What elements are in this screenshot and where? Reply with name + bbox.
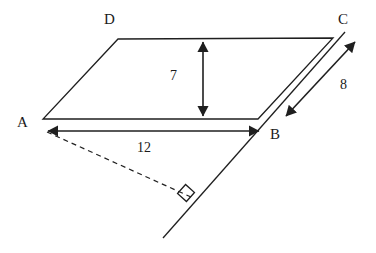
base-measure-label: 12 [137,141,151,155]
vertex-label-c: C [338,12,348,27]
figure-canvas [0,0,376,253]
geometry-figure: A B C D 7 12 8 [0,0,376,253]
vertex-label-d: D [104,12,115,27]
vertex-label-a: A [17,115,28,130]
parallelogram-abcd [43,38,333,119]
vertex-label-b: B [270,127,280,142]
height-measure-label: 7 [170,69,177,83]
slant-side-measure-label: 8 [340,78,347,92]
dashed-perpendicular-from-a [47,132,191,197]
right-angle-square-icon [178,185,195,202]
extended-line-through-b [163,32,345,238]
